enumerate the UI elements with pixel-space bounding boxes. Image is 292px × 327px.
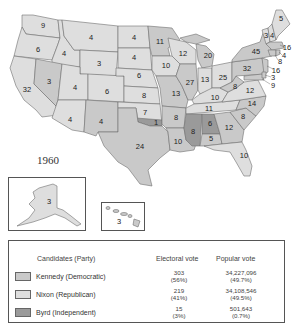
ev-label-west-virginia: 8 [233, 82, 237, 91]
popular-nixon-count: 34,108,546 [217, 287, 265, 294]
swatch-nixon [15, 290, 31, 299]
ev-label-kansas: 8 [142, 91, 146, 100]
ev-label-idaho: 4 [62, 49, 66, 58]
popular-kennedy: 34,227,096 (49.7%) [217, 269, 265, 283]
popular-kennedy-pct: (49.7%) [217, 276, 265, 283]
ev-label-connecticut: 8 [278, 57, 282, 66]
swatch-kennedy [15, 272, 31, 281]
popular-kennedy-count: 34,227,096 [217, 269, 265, 276]
ev-label-north-carolina: 14 [248, 99, 256, 108]
ev-label-maryland: 9 [271, 81, 275, 90]
ev-label-illinois: 27 [186, 78, 194, 87]
electoral-byrd: 15 (3%) [164, 305, 194, 319]
popular-nixon-pct: (49.5%) [217, 294, 265, 301]
ev-label-mississippi: 8 [191, 127, 195, 136]
ev-label-south-carolina: 8 [241, 112, 245, 121]
ev-label-alabama-byrd: 6 [208, 119, 212, 128]
state-rhode-island [276, 50, 280, 56]
ev-label-florida: 10 [240, 151, 248, 160]
swatch-byrd [15, 308, 31, 317]
results-legend: Candidates (Party) Electoral vote Popula… [8, 240, 285, 323]
ev-label-oklahoma: 7 [143, 108, 147, 117]
ev-label-montana: 4 [89, 33, 93, 42]
ev-label-michigan: 20 [204, 51, 212, 60]
candidate-nixon: Nixon (Republican) [36, 291, 96, 298]
ev-label-tennessee: 11 [205, 104, 213, 113]
ev-label-california: 32 [23, 85, 31, 94]
popular-byrd-pct: (0.7%) [217, 312, 265, 319]
ev-label-new-mexico: 4 [99, 117, 103, 126]
electoral-kennedy: 303 (56%) [164, 269, 194, 283]
ev-label-washington: 9 [41, 21, 45, 30]
ev-label-oklahoma-byrd: 1 [154, 118, 158, 127]
header-candidates: Candidates (Party) [37, 255, 95, 262]
ev-label-vermont: 3 [264, 31, 268, 40]
ev-label-new-york: 45 [252, 47, 260, 56]
electoral-nixon: 219 (41%) [164, 287, 194, 301]
electoral-kennedy-pct: (56%) [164, 276, 194, 283]
ev-label-alabama-kennedy: 5 [209, 134, 213, 143]
ev-label-kentucky: 10 [211, 93, 219, 102]
header-popular-vote: Popular vote [216, 255, 255, 262]
ev-label-ohio: 25 [219, 73, 227, 82]
electoral-nixon-count: 219 [164, 287, 194, 294]
ev-label-iowa: 10 [162, 61, 170, 70]
electoral-byrd-pct: (3%) [164, 312, 194, 319]
ev-label-north-dakota: 4 [132, 33, 136, 42]
ev-label-utah: 4 [73, 83, 77, 92]
header-electoral-vote: Electoral vote [156, 255, 198, 262]
hawaii-shape: 3 [102, 203, 144, 230]
ev-label-virginia: 12 [246, 86, 254, 95]
ev-label-wisconsin: 12 [179, 49, 187, 58]
ev-label-nevada: 3 [47, 77, 51, 86]
alaska-shape: 3 [9, 178, 85, 230]
ev-label-alaska: 3 [47, 197, 51, 206]
candidate-kennedy: Kennedy (Democratic) [36, 273, 106, 280]
legend-row-nixon: Nixon (Republican) [15, 289, 96, 299]
candidate-byrd: Byrd (Independent) [36, 309, 96, 316]
ev-label-nebraska: 6 [137, 71, 141, 80]
ev-label-colorado: 6 [105, 87, 109, 96]
ev-label-maine: 5 [279, 14, 283, 23]
legend-row-byrd: Byrd (Independent) [15, 307, 96, 317]
ev-label-minnesota: 11 [156, 37, 164, 46]
electoral-byrd-count: 15 [164, 305, 194, 312]
ev-label-georgia: 12 [225, 123, 233, 132]
ev-label-arkansas: 8 [174, 113, 178, 122]
ev-label-hawaii: 3 [117, 217, 121, 226]
ev-label-rhode-island: 4 [282, 51, 286, 60]
ev-label-arizona: 4 [68, 115, 72, 124]
electoral-nixon-pct: (41%) [164, 294, 194, 301]
ev-label-pennsylvania: 32 [243, 64, 251, 73]
alaska-inset: 3 [8, 177, 86, 231]
ev-label-new-hampshire: 4 [270, 31, 274, 40]
legend-row-kennedy: Kennedy (Democratic) [15, 271, 106, 281]
popular-nixon: 34,108,546 (49.5%) [217, 287, 265, 301]
popular-byrd-count: 501,643 [217, 305, 265, 312]
ev-label-texas: 24 [136, 142, 144, 151]
ev-label-louisiana: 10 [174, 137, 182, 146]
ev-label-oregon: 6 [36, 45, 40, 54]
year-label: 1960 [37, 154, 59, 166]
popular-byrd: 501,643 (0.7%) [217, 305, 265, 319]
hawaii-inset: 3 [101, 202, 145, 231]
ev-label-missouri: 13 [172, 89, 180, 98]
ev-label-wyoming: 3 [97, 59, 101, 68]
electoral-kennedy-count: 303 [164, 269, 194, 276]
ev-label-indiana: 13 [201, 75, 209, 84]
ev-label-south-dakota: 4 [132, 53, 136, 62]
